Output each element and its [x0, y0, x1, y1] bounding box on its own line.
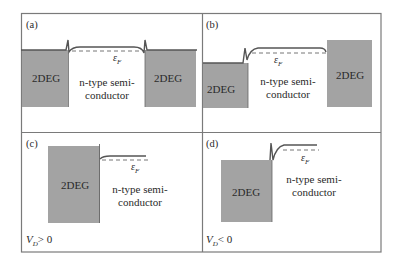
panel-b-band-edge: [203, 48, 326, 63]
panel-d-bias-label: VD< 0: [206, 233, 233, 248]
panel-a: (a) εF 2DEG 2DEG n-type semi- conductor: [21, 19, 197, 107]
panel-c-semiconductor-label-2: conductor: [118, 196, 162, 208]
panel-b: (b) εF 2DEG 2DEG n-type semi- conductor: [203, 19, 372, 108]
panel-b-label: (b): [206, 19, 219, 31]
panel-c-label: (c): [26, 138, 38, 150]
panel-d-fermi-label: εF: [301, 152, 310, 166]
panel-a-semiconductor-label-2: conductor: [85, 89, 129, 101]
panel-b-semiconductor-label-1: n-type semi-: [260, 75, 316, 87]
band-diagram-figure: (a) εF 2DEG 2DEG n-type semi- conductor …: [0, 0, 399, 263]
panel-b-left-2deg-label: 2DEG: [207, 83, 235, 95]
panel-c-bias-label: VD> 0: [26, 233, 53, 248]
panel-d: (d) εF 2DEG n-type semi- conductor VD< 0: [206, 138, 342, 248]
panel-a-semiconductor-label-1: n-type semi-: [79, 76, 135, 88]
panel-c: (c) εF 2DEG n-type semi- conductor VD> 0: [26, 138, 168, 248]
panel-b-semiconductor-label-2: conductor: [266, 88, 310, 100]
panel-c-semiconductor-label-1: n-type semi-: [112, 183, 168, 195]
panel-a-right-2deg-label: 2DEG: [154, 72, 182, 84]
panel-b-fermi-label: εF: [274, 54, 283, 68]
panel-d-semiconductor-label-1: n-type semi-: [286, 173, 342, 185]
panel-a-fermi-label: εF: [113, 52, 122, 66]
panel-a-label: (a): [26, 19, 38, 31]
panel-c-2deg-label: 2DEG: [61, 179, 89, 191]
panel-c-fermi-label: εF: [131, 161, 140, 175]
panel-d-2deg-label: 2DEG: [232, 186, 260, 198]
panel-d-label: (d): [206, 138, 219, 150]
panel-d-semiconductor-label-2: conductor: [292, 186, 336, 198]
panel-c-band-edge: [100, 156, 146, 159]
panel-b-right-2deg-label: 2DEG: [336, 69, 364, 81]
panel-d-band-edge: [270, 143, 317, 160]
panel-a-left-2deg-label: 2DEG: [32, 72, 60, 84]
